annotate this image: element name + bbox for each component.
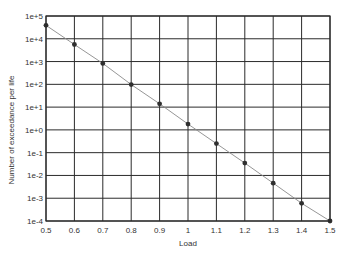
y-tick-label: 1e+5 [25,12,44,21]
y-tick-label: 1e+3 [25,58,44,67]
data-point-marker [214,141,219,146]
y-tick-label: 1e-4 [27,217,44,226]
x-axis-title: Load [179,239,197,248]
x-axis-tick-labels: 0.50.60.70.80.911.11.21.31.41.5 [40,226,336,235]
data-point-marker [186,122,191,127]
x-tick-label: 0.5 [40,226,52,235]
y-tick-label: 1e-2 [27,171,44,180]
data-point-marker [157,101,162,106]
grid-lines [46,16,330,221]
y-axis-title: Number of exceedance per life [7,75,16,185]
x-tick-label: 1.4 [296,226,308,235]
data-point-marker [72,42,77,47]
y-tick-label: 1e+2 [25,80,44,89]
data-point-marker [242,161,247,166]
x-tick-label: 1.5 [324,226,336,235]
data-point-marker [100,61,105,66]
x-tick-label: 0.7 [97,226,109,235]
x-tick-label: 1 [186,226,191,235]
y-axis-tick-labels: 1e+51e+41e+31e+21e+11e+01e-11e-21e-31e-4 [25,12,44,226]
data-point-marker [271,181,276,186]
data-point-marker [129,82,134,87]
y-tick-label: 1e-3 [27,194,44,203]
x-tick-label: 1.3 [268,226,280,235]
data-point-marker [299,201,304,206]
y-tick-label: 1e-1 [27,149,44,158]
y-tick-label: 1e+1 [25,103,44,112]
x-tick-label: 1.2 [239,226,251,235]
y-tick-label: 1e+4 [25,35,44,44]
x-tick-label: 0.9 [154,226,166,235]
chart: 1e+51e+41e+31e+21e+11e+01e-11e-21e-31e-4… [0,0,347,254]
y-tick-label: 1e+0 [25,126,44,135]
x-tick-label: 0.6 [69,226,81,235]
x-tick-label: 0.8 [126,226,138,235]
x-tick-label: 1.1 [211,226,223,235]
